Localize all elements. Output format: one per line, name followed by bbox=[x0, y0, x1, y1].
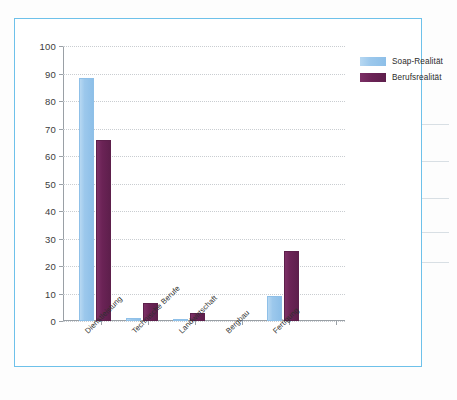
y-axis-tick-mark bbox=[59, 294, 63, 295]
x-axis-tick-label: Landwirtschaft bbox=[177, 293, 219, 335]
y-axis-tick-label: 60 bbox=[45, 151, 56, 162]
bar-soap[interactable] bbox=[267, 296, 282, 321]
y-axis-tick-label: 90 bbox=[45, 68, 56, 79]
scan-artifact-line bbox=[420, 262, 449, 263]
chart-legend: Soap-RealitätBerufsrealität bbox=[360, 57, 457, 89]
y-axis-tick-label: 50 bbox=[45, 178, 56, 189]
bar-soap[interactable] bbox=[79, 78, 94, 321]
y-axis-tick-label: 70 bbox=[45, 123, 56, 134]
y-axis-tick-mark bbox=[59, 239, 63, 240]
y-axis-tick-label: 30 bbox=[45, 233, 56, 244]
legend-item[interactable]: Soap-Realität bbox=[360, 57, 457, 66]
plot-area: 0102030405060708090100 DienstleistungTec… bbox=[63, 46, 345, 321]
y-axis-tick-mark bbox=[59, 156, 63, 157]
y-axis-tick-label: 20 bbox=[45, 261, 56, 272]
bar-group: Landwirtschaft bbox=[171, 46, 218, 321]
y-axis-tick-label: 40 bbox=[45, 206, 56, 217]
legend-color-swatch bbox=[360, 57, 386, 66]
x-axis-tick-mark bbox=[336, 321, 337, 325]
scan-artifact-line bbox=[418, 198, 449, 199]
bar-beruf[interactable] bbox=[96, 140, 111, 322]
bar-group-empty bbox=[312, 46, 359, 321]
y-axis-tick-mark bbox=[59, 321, 63, 322]
scan-artifact-line bbox=[422, 232, 449, 233]
chart-figure-frame: 0102030405060708090100 DienstleistungTec… bbox=[14, 18, 422, 367]
bar-group: Fertigung bbox=[265, 46, 312, 321]
y-axis-tick-mark bbox=[59, 184, 63, 185]
bar-group: Dienstleistung bbox=[77, 46, 124, 321]
legend-label: Soap-Realität bbox=[392, 57, 443, 66]
y-axis-tick-label: 0 bbox=[51, 316, 56, 327]
y-axis-tick-mark bbox=[59, 129, 63, 130]
y-axis-tick-label: 80 bbox=[45, 96, 56, 107]
y-axis-tick-mark bbox=[59, 46, 63, 47]
y-axis-tick-mark bbox=[59, 211, 63, 212]
y-axis-tick-mark bbox=[59, 101, 63, 102]
y-axis-tick-mark bbox=[59, 74, 63, 75]
y-axis-tick-label: 100 bbox=[40, 41, 56, 52]
y-axis-tick-mark bbox=[59, 266, 63, 267]
scan-artifact-line bbox=[421, 161, 449, 162]
legend-label: Berufsrealität bbox=[392, 73, 442, 82]
bar-group: Bergbau bbox=[218, 46, 265, 321]
bar-group: Technische Berufe bbox=[124, 46, 171, 321]
legend-color-swatch bbox=[360, 73, 386, 82]
y-axis-tick-label: 10 bbox=[45, 288, 56, 299]
scanned-page-background: 0102030405060708090100 DienstleistungTec… bbox=[0, 0, 457, 400]
gridline bbox=[63, 321, 345, 322]
scan-artifact-line bbox=[419, 124, 449, 125]
legend-item[interactable]: Berufsrealität bbox=[360, 73, 457, 82]
